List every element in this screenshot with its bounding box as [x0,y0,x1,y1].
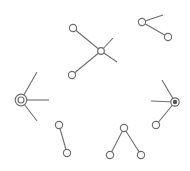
group-bottom-tree [110,128,141,155]
group-left-hub-nodes [15,94,27,106]
node[interactable] [138,18,145,25]
node[interactable] [55,121,62,128]
hub-node[interactable] [15,94,27,106]
node[interactable] [68,71,75,78]
group-top-right-pair [142,15,168,37]
edge [110,128,124,155]
node[interactable] [63,149,70,156]
node[interactable] [69,24,76,31]
diagram-canvas [0,0,190,171]
group-bottom-left-pair [59,125,67,153]
nodes-layer [15,18,179,158]
junction-node[interactable] [98,48,105,55]
selected-node[interactable] [171,98,179,106]
edge [73,28,101,51]
edge [142,22,168,37]
node[interactable] [152,121,159,128]
node[interactable] [137,151,144,158]
node[interactable] [106,151,113,158]
edge [124,128,141,155]
edge [59,125,67,153]
group-center-star-nodes [68,24,104,78]
node[interactable] [164,33,171,40]
node[interactable] [120,124,127,131]
edge [72,51,101,75]
edges-layer [21,15,175,155]
group-bottom-tree-nodes [106,124,144,158]
group-center-star [72,28,117,75]
